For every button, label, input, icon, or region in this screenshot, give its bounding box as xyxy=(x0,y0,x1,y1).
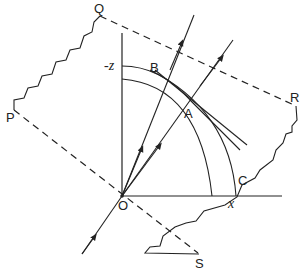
wavy-edge-r-s xyxy=(145,106,297,254)
dashed-line-q-r xyxy=(100,16,296,106)
label-p: P xyxy=(6,110,15,125)
wavy-edge-p-q xyxy=(14,16,100,110)
incident-ray-arrow xyxy=(82,236,95,254)
label-x: x xyxy=(227,196,235,211)
ray-o-a-arrow-2 xyxy=(200,57,222,86)
label-b: B xyxy=(150,60,159,75)
label-s: S xyxy=(195,256,204,271)
diagram-canvas: Q P R S O A B C -z x xyxy=(0,0,306,274)
ray-o-a-arrow xyxy=(122,145,160,196)
label-o: O xyxy=(118,198,128,213)
label-neg-z: -z xyxy=(104,58,115,73)
label-r: R xyxy=(290,90,299,105)
label-q: Q xyxy=(94,1,104,16)
tangent-line xyxy=(155,70,247,145)
label-c: C xyxy=(238,173,247,188)
label-a: A xyxy=(184,106,193,121)
ray-o-a xyxy=(122,40,233,196)
dashed-line-p-s xyxy=(14,110,198,253)
ray-o-b-arrow-2 xyxy=(170,42,182,70)
